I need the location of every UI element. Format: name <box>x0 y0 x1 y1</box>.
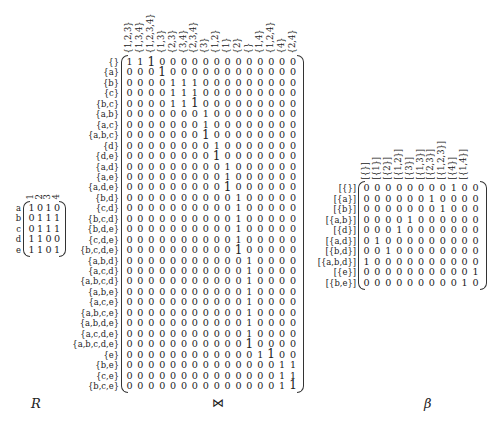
join-row-label: {a,c,e} <box>59 298 119 306</box>
join-cell: 0 <box>147 214 156 224</box>
join-row-label: {b,c,e} <box>59 382 119 390</box>
join-cell: 0 <box>212 130 221 140</box>
beta-cell: 0 <box>395 278 404 288</box>
join-cell: 0 <box>169 67 178 77</box>
beta-cell: 0 <box>460 215 469 225</box>
join-cell: 0 <box>256 130 265 140</box>
join-cell: 0 <box>190 162 199 172</box>
beta-cell: 0 <box>373 215 382 225</box>
join-cell: 0 <box>158 120 167 130</box>
join-cell: 0 <box>212 203 221 213</box>
join-cell: 0 <box>190 318 199 328</box>
join-cell: 0 <box>190 130 199 140</box>
join-cell: 0 <box>278 235 287 245</box>
beta-cell: 0 <box>417 278 426 288</box>
join-cell: 0 <box>267 371 276 381</box>
beta-cell: 0 <box>427 183 436 193</box>
r-row-label: e <box>11 246 21 254</box>
r-left-bracket <box>23 201 30 257</box>
join-cell: 0 <box>169 162 178 172</box>
join-cell: 1 <box>234 214 243 224</box>
beta-cell: 0 <box>406 278 415 288</box>
join-row-label: {c,d} <box>59 204 119 212</box>
join-cell: 0 <box>256 120 265 130</box>
join-cell: 0 <box>223 130 232 140</box>
join-cell: 0 <box>267 130 276 140</box>
join-cell: 0 <box>201 256 210 266</box>
beta-cell: 1 <box>395 225 404 235</box>
join-cell: 0 <box>147 350 156 360</box>
beta-row-label: [{a,b,d}] <box>306 258 356 266</box>
join-cell: 0 <box>180 381 189 391</box>
join-cell: 0 <box>256 339 265 349</box>
join-cell: 0 <box>245 172 254 182</box>
beta-cell: 0 <box>438 225 447 235</box>
beta-col-label: [{3}] <box>404 157 412 180</box>
join-cell: 0 <box>278 172 287 182</box>
join-cell: 1 <box>180 99 189 109</box>
join-cell: 0 <box>147 130 156 140</box>
join-cell: 0 <box>256 360 265 370</box>
join-cell: 0 <box>147 203 156 213</box>
join-cell: 0 <box>212 287 221 297</box>
join-cell: 0 <box>234 256 243 266</box>
join-cell: 0 <box>245 203 254 213</box>
join-cell: 0 <box>190 141 199 151</box>
join-cell: 0 <box>158 162 167 172</box>
join-cell: 0 <box>256 297 265 307</box>
join-cell: 0 <box>169 193 178 203</box>
join-cell: 0 <box>180 57 189 67</box>
join-cell: 0 <box>180 67 189 77</box>
join-cell: 0 <box>201 193 210 203</box>
join-cell: 0 <box>289 308 298 318</box>
join-row-label: {a} <box>59 68 119 76</box>
join-left-bracket <box>121 55 128 393</box>
join-cell: 0 <box>201 245 210 255</box>
join-cell: 0 <box>158 256 167 266</box>
join-cell: 0 <box>190 67 199 77</box>
beta-cell: 0 <box>384 225 393 235</box>
join-row-label: {a,b,d} <box>59 257 119 265</box>
beta-cell: 0 <box>395 236 404 246</box>
join-cell: 0 <box>136 381 145 391</box>
join-cell: 0 <box>256 78 265 88</box>
join-cell: 0 <box>201 360 210 370</box>
beta-row-label: [{d}] <box>306 226 356 234</box>
join-cell: 0 <box>201 57 210 67</box>
join-cell: 0 <box>267 193 276 203</box>
join-cell: 0 <box>147 141 156 151</box>
join-cell: 0 <box>212 109 221 119</box>
join-cell: 0 <box>289 182 298 192</box>
join-row-label: {a,b,c,e} <box>59 309 119 317</box>
join-cell: 0 <box>180 371 189 381</box>
join-cell: 0 <box>180 329 189 339</box>
beta-cell: 0 <box>427 225 436 235</box>
join-cell: 0 <box>190 381 199 391</box>
join-cell: 0 <box>136 88 145 98</box>
join-cell: 0 <box>234 350 243 360</box>
join-cell: 0 <box>289 67 298 77</box>
join-cell: 0 <box>169 276 178 286</box>
beta-col-label: [{4}] <box>448 157 456 180</box>
join-row-label: {b} <box>59 79 119 87</box>
r-row-label: c <box>11 225 21 233</box>
beta-cell: 0 <box>460 236 469 246</box>
join-cell: 0 <box>245 381 254 391</box>
beta-cell: 0 <box>449 278 458 288</box>
join-cell: 0 <box>180 224 189 234</box>
join-cell: 0 <box>278 287 287 297</box>
join-cell: 0 <box>234 172 243 182</box>
join-cell: 0 <box>169 120 178 130</box>
join-cell: 0 <box>136 224 145 234</box>
beta-cell: 0 <box>373 183 382 193</box>
join-cell: 0 <box>169 297 178 307</box>
join-cell: 0 <box>158 245 167 255</box>
join-cell: 0 <box>212 214 221 224</box>
join-cell: 0 <box>289 350 298 360</box>
join-cell: 0 <box>136 350 145 360</box>
join-cell: 0 <box>180 214 189 224</box>
join-cell: 0 <box>180 141 189 151</box>
join-cell: 0 <box>136 276 145 286</box>
join-cell: 0 <box>136 151 145 161</box>
beta-cell: 0 <box>406 183 415 193</box>
